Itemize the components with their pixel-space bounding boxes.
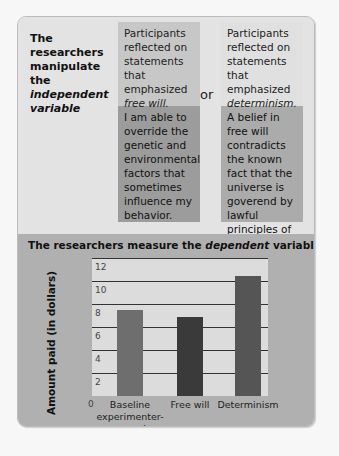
measurement-section: The researchers measure the dependent va…	[18, 234, 314, 426]
dependent-variable-title: The researchers measure the dependent va…	[28, 239, 315, 251]
bar-chart-plot: 024681012	[92, 258, 268, 396]
figure-panel: The researchers manipulate the independe…	[17, 16, 315, 427]
determinism-desc-text: Participants reflected on statements tha…	[227, 27, 290, 95]
independent-variable-label: The researchers manipulate the independe…	[30, 32, 120, 116]
determinism-desc-italic: determinism.	[227, 97, 297, 109]
dv-title-prefix: The researchers measure the	[28, 239, 202, 251]
y-tick-label: 10	[95, 285, 106, 295]
y-tick-label: 6	[95, 331, 101, 341]
iv-label-italic: independent variable	[30, 88, 109, 115]
free-will-example: I am able to override the genetic and en…	[118, 106, 200, 222]
x-category-label: Determinism	[208, 399, 288, 411]
dv-title-italic: dependent	[205, 239, 269, 251]
determinism-description: Participants reflected on statements tha…	[221, 22, 303, 106]
dv-title-suffix: variable	[273, 239, 315, 251]
y-axis-label: Amount paid (in dollars)	[45, 285, 57, 415]
iv-label-text: The researchers manipulate the	[30, 32, 104, 87]
free-will-description: Participants reflected on statements tha…	[118, 22, 200, 106]
free-will-desc-text: Participants reflected on statements tha…	[124, 27, 187, 95]
or-connector: or	[200, 87, 213, 102]
manipulation-section: The researchers manipulate the independe…	[18, 17, 314, 234]
y-tick-label: 2	[95, 377, 101, 387]
determinism-example: A belief in free will contradicts the kn…	[221, 106, 303, 222]
bar-determinism	[235, 276, 261, 396]
bar-baseline	[117, 310, 143, 396]
condition-determinism: Participants reflected on statements tha…	[221, 22, 303, 222]
free-will-desc-italic: free will.	[124, 97, 169, 109]
y-tick-label: 4	[95, 354, 101, 364]
condition-free-will: Participants reflected on statements tha…	[118, 22, 200, 222]
gridline	[92, 258, 268, 259]
y-tick-label: 12	[95, 262, 106, 272]
y-tick-label: 8	[95, 308, 101, 318]
bar-free-will	[177, 317, 203, 396]
